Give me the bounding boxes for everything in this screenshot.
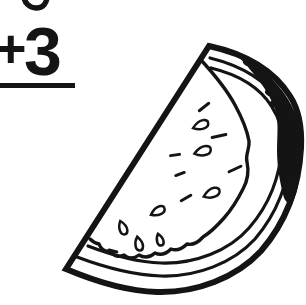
partial-digit [24,0,47,8]
operator-text: + [0,18,27,78]
scene: + 3 [0,0,306,305]
addend-text: 3 [24,13,62,89]
watermelon-seed-dash [109,250,117,252]
worksheet-fragment: + 3 [0,0,306,305]
sum-line [0,83,75,88]
math-problem: + 3 [0,0,75,89]
watermelon-seed-dash [171,154,180,155]
watermelon-slice-illustration [66,46,302,292]
